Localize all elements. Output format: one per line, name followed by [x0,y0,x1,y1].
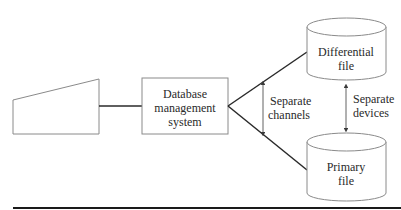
channels-label-line1: Separate [270,94,311,108]
dbms-label-line2: management [154,101,216,115]
differential-file-label-line2: file [338,59,354,73]
devices-label-line2: devices [353,106,389,120]
devices-label-line1: Separate [353,92,394,106]
terminal-shape [13,79,99,134]
differential-file-label-line1: Differential [318,45,374,59]
channels-label-line2: channels [268,108,310,122]
dbms-label-line1: Database [163,87,207,101]
primary-file-label-line2: file [338,174,354,188]
primary-file-label-line1: Primary [327,160,366,174]
dbms-label-line3: system [168,115,202,129]
diagram-canvas: Database management system Separate chan… [0,0,401,210]
